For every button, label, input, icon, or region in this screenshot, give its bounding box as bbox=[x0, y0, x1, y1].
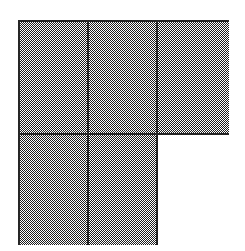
grid-cell-r2c3[interactable] bbox=[158, 135, 229, 245]
grid-cell-r1c3[interactable] bbox=[158, 22, 229, 133]
grid-cell-r1c2[interactable] bbox=[89, 22, 156, 133]
grid-cell-r2c1[interactable] bbox=[20, 135, 87, 245]
grid-cell-r1c1[interactable] bbox=[20, 22, 87, 133]
figure-canvas bbox=[0, 0, 245, 251]
fraction-grid bbox=[18, 20, 229, 245]
grid-cell-r2c2[interactable] bbox=[89, 135, 156, 245]
